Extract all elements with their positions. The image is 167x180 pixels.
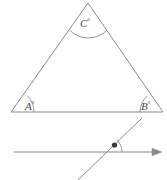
marked-angle-dot-icon — [112, 142, 117, 147]
triangle-ABC: A° B° C° — [11, 3, 163, 112]
angle-label-C: C° — [80, 17, 90, 29]
angle-label-C-degree: ° — [87, 17, 90, 25]
ray-with-transversal — [14, 118, 162, 180]
geometry-canvas: A° B° C° — [0, 0, 167, 180]
transversal-line — [78, 118, 142, 180]
angle-label-A-degree: ° — [32, 100, 35, 108]
angle-arc-C — [70, 30, 108, 38]
geometry-figure: A° B° C° — [0, 0, 167, 180]
angle-label-B-degree: ° — [148, 100, 151, 108]
triangle-side-AC — [11, 3, 88, 112]
angle-label-B: B° — [141, 100, 151, 112]
triangle-side-CB — [88, 3, 163, 112]
right-arrowhead-icon — [152, 148, 162, 156]
angle-label-A: A° — [24, 100, 35, 112]
